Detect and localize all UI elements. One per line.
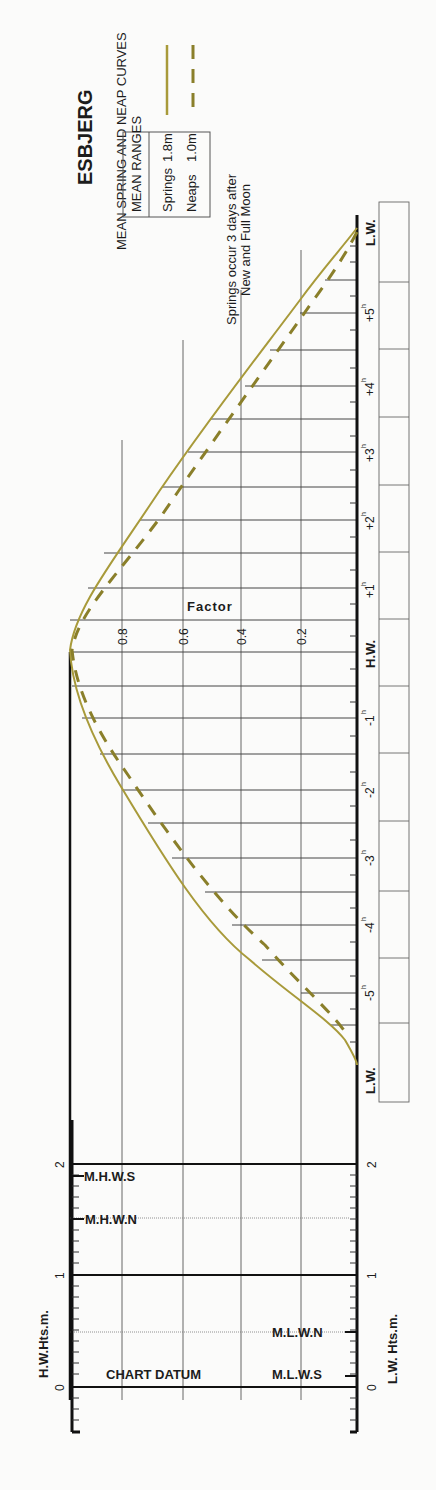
time-label-plus3: +3 <box>363 448 377 462</box>
time-label-lw-end: L.W. <box>363 219 378 246</box>
time-label-plus4: +4 <box>363 382 377 396</box>
svg-text:0.4: 0.4 <box>235 628 249 645</box>
svg-text:1: 1 <box>53 1272 67 1279</box>
factor-gridlines <box>122 250 301 1400</box>
time-label-minus2: -2 <box>363 787 377 798</box>
svg-text:0.2: 0.2 <box>295 628 309 645</box>
springs-note-line2: New and Full Moon <box>238 184 253 296</box>
time-label-plus5: +5 <box>363 308 377 322</box>
time-label-minus1: -1 <box>363 715 377 726</box>
springs-note-line1: Springs occur 3 days after <box>224 173 239 325</box>
svg-text:h: h <box>360 582 367 586</box>
svg-text:1: 1 <box>365 1272 379 1279</box>
mhwn-label: M.H.W.N <box>85 1212 137 1227</box>
svg-text:h: h <box>360 304 367 308</box>
mlws-label: M.L.W.S <box>272 1367 322 1382</box>
chart-title: ESBJERG <box>74 89 96 185</box>
heights-scale <box>70 1120 357 1432</box>
springs-label: Springs <box>160 167 175 212</box>
time-label-minus4: -4 <box>363 922 377 933</box>
svg-text:0.6: 0.6 <box>177 628 191 645</box>
svg-text:0: 0 <box>365 1384 379 1391</box>
factor-axis-title: Factor <box>187 599 233 614</box>
svg-text:h: h <box>360 444 367 448</box>
mean-ranges-table: MEAN RANGES Springs 1.8m Neaps 1.0m <box>123 116 210 217</box>
svg-text:h: h <box>360 782 367 786</box>
time-label-lw-start: L.W. <box>363 1067 378 1094</box>
time-label-strip <box>379 202 409 1102</box>
neaps-label: Neaps <box>184 174 199 212</box>
svg-text:h: h <box>360 710 367 714</box>
svg-text:0.8: 0.8 <box>116 628 130 645</box>
svg-text:h: h <box>360 512 367 516</box>
time-label-minus3: -3 <box>363 855 377 866</box>
svg-text:h: h <box>360 917 367 921</box>
chart-datum-label: CHART DATUM <box>106 1367 201 1382</box>
svg-text:h: h <box>360 850 367 854</box>
time-axis-labels: L.W. +5 +4 +3 +2 +1 H.W. -1 -2 -3 -4 -5 … <box>363 219 378 1094</box>
time-gridlines <box>70 280 357 1025</box>
factor-tick-labels: 0.8 0.6 0.4 0.2 <box>116 628 309 645</box>
neaps-range: 1.0m <box>184 133 199 162</box>
neaps-curve <box>72 232 357 1035</box>
hw-height-labels: 2 1 0 <box>53 1161 67 1391</box>
hw-heights-axis-label: H.W.Hts.m. <box>36 1310 51 1378</box>
lw-height-labels: 2 1 0 <box>365 1161 379 1391</box>
springs-curve <box>70 228 357 1065</box>
svg-text:2: 2 <box>365 1161 379 1168</box>
mhws-label: M.H.W.S <box>84 1169 136 1184</box>
mlwn-label: M.L.W.N <box>272 1325 323 1340</box>
time-label-plus2: +2 <box>363 516 377 530</box>
lw-heights-axis-label: L.W. Hts.m. <box>385 1314 400 1384</box>
svg-text:h: h <box>360 985 367 989</box>
time-label-minus5: -5 <box>363 990 377 1001</box>
springs-range: 1.8m <box>160 133 175 162</box>
time-label-hw: H.W. <box>363 640 378 668</box>
svg-text:2: 2 <box>53 1161 67 1168</box>
tidal-curve-chart: ESBJERG MEAN SPRING AND NEAP CURVES MEAN… <box>0 0 436 1490</box>
mean-ranges-heading: MEAN RANGES <box>129 116 144 212</box>
svg-text:0: 0 <box>53 1384 67 1391</box>
svg-text:h: h <box>360 378 367 382</box>
